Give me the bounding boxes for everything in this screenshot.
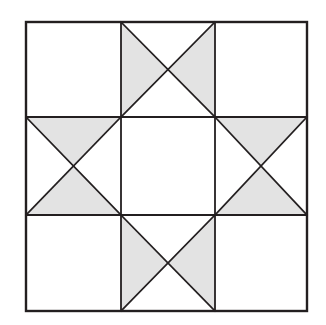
figure-background: [0, 0, 326, 325]
quilt-block-figure: [0, 0, 326, 325]
quilt-block-diagram: [0, 0, 326, 325]
